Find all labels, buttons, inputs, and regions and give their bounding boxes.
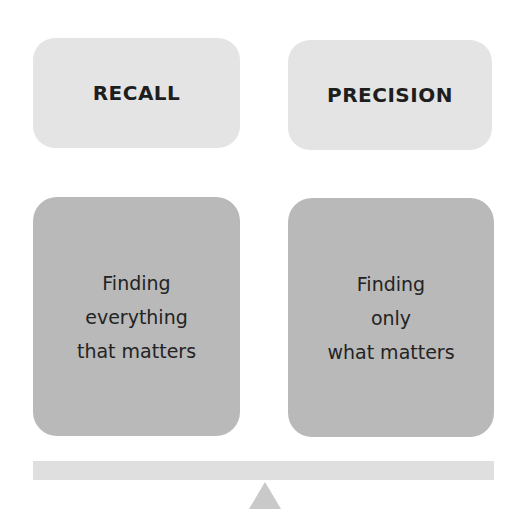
precision-description: Finding only what matters [327, 267, 454, 369]
balance-beam [33, 461, 494, 480]
precision-description-box: Finding only what matters [288, 198, 494, 437]
precision-label-box: PRECISION [288, 40, 492, 150]
fulcrum-triangle-icon [249, 482, 281, 509]
recall-label-box: RECALL [33, 38, 240, 148]
recall-description: Finding everything that matters [77, 266, 196, 368]
recall-description-box: Finding everything that matters [33, 197, 240, 436]
precision-label: PRECISION [327, 83, 453, 107]
recall-label: RECALL [93, 81, 181, 105]
